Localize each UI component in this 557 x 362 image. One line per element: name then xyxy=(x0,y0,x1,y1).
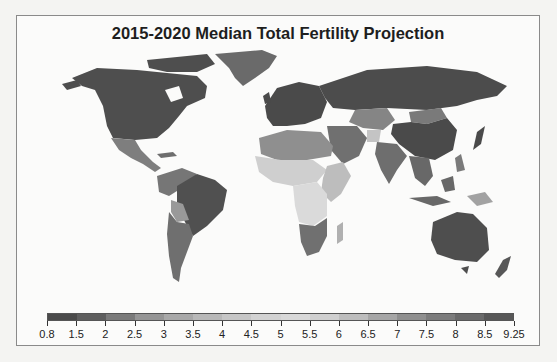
colorbar-tick-label: 7 xyxy=(394,328,400,340)
region-north-america xyxy=(72,68,207,140)
colorbar-tick xyxy=(222,321,223,326)
colorbar-tick xyxy=(193,321,194,326)
colorbar-tick xyxy=(164,321,165,326)
colorbar-tick xyxy=(281,321,282,326)
colorbar-segment xyxy=(426,314,455,320)
colorbar-tick xyxy=(105,321,106,326)
colorbar-tick xyxy=(339,321,340,326)
colorbar-segment xyxy=(106,314,135,320)
region-new-zealand xyxy=(495,256,511,278)
colorbar-segment xyxy=(251,314,280,320)
colorbar-tick xyxy=(485,321,486,326)
colorbar-segment xyxy=(48,314,77,320)
region-papua-new-guinea xyxy=(467,192,493,206)
colorbar-segment xyxy=(368,314,397,320)
colorbar-tick-label: 9.25 xyxy=(503,328,524,340)
colorbar-tick-label: 3.5 xyxy=(185,328,200,340)
region-australia xyxy=(431,212,489,262)
colorbar-segment xyxy=(164,314,193,320)
colorbar-tick-labels: 0.81.522.533.544.555.566.577.588.59.25 xyxy=(47,328,514,342)
colorbar-tick xyxy=(456,321,457,326)
colorbar-tick xyxy=(251,321,252,326)
colorbar-segment xyxy=(135,314,164,320)
region-mexico xyxy=(111,138,161,172)
colorbar-segment xyxy=(193,314,222,320)
colorbar-segment xyxy=(281,314,310,320)
colorbar-tick-label: 7.5 xyxy=(419,328,434,340)
colorbar-tick-label: 3 xyxy=(161,328,167,340)
region-madagascar xyxy=(337,222,343,244)
figure-frame: 2015-2020 Median Total Fertility Project… xyxy=(16,15,540,346)
colorbar-segment xyxy=(310,314,339,320)
colorbar-tick-label: 0.8 xyxy=(39,328,54,340)
colorbar-segment xyxy=(339,314,368,320)
colorbar-segment xyxy=(484,314,513,320)
colorbar-tick xyxy=(368,321,369,326)
colorbar-tick xyxy=(426,321,427,326)
chart-title: 2015-2020 Median Total Fertility Project… xyxy=(17,24,539,43)
region-southeast-asia xyxy=(409,156,433,186)
colorbar xyxy=(47,313,514,321)
region-north-africa xyxy=(259,130,333,160)
colorbar-tick-label: 6 xyxy=(336,328,342,340)
colorbar-ticks xyxy=(47,321,514,327)
colorbar-tick-label: 5 xyxy=(277,328,283,340)
colorbar-segment xyxy=(77,314,106,320)
region-russia xyxy=(319,66,507,110)
colorbar-segment xyxy=(455,314,484,320)
region-india xyxy=(375,142,407,184)
region-europe xyxy=(265,82,327,126)
colorbar-tick xyxy=(514,321,515,326)
colorbar-tick-label: 4.5 xyxy=(244,328,259,340)
colorbar-tick xyxy=(76,321,77,326)
colorbar-tick-label: 2.5 xyxy=(127,328,142,340)
colorbar-tick-label: 6.5 xyxy=(360,328,375,340)
colorbar-tick xyxy=(310,321,311,326)
region-central-africa xyxy=(293,182,327,226)
region-afghanistan xyxy=(367,130,381,142)
colorbar-tick xyxy=(47,321,48,326)
colorbar-tick-label: 8 xyxy=(453,328,459,340)
colorbar-tick-label: 1.5 xyxy=(69,328,84,340)
colorbar-tick xyxy=(135,321,136,326)
colorbar-tick-label: 4 xyxy=(219,328,225,340)
colorbar-tick-label: 5.5 xyxy=(302,328,317,340)
colorbar-tick-label: 2 xyxy=(102,328,108,340)
region-sahel-west-africa xyxy=(255,156,327,186)
region-greenland xyxy=(215,50,277,86)
colorbar-tick-label: 8.5 xyxy=(477,328,492,340)
colorbar-segment xyxy=(222,314,251,320)
world-map xyxy=(37,46,527,308)
colorbar-tick xyxy=(397,321,398,326)
region-canada-arctic xyxy=(147,54,215,72)
colorbar-segment xyxy=(397,314,426,320)
region-middle-east xyxy=(327,126,367,164)
